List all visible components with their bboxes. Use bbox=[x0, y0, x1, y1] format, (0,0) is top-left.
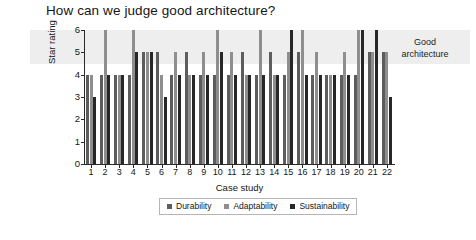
bar-durability-case-11[interactable] bbox=[227, 75, 230, 164]
x-tick-mark bbox=[204, 165, 205, 168]
bar-group bbox=[366, 30, 380, 164]
bar-group bbox=[281, 30, 295, 164]
x-tick-label: 7 bbox=[169, 168, 183, 177]
x-tick-label: 5 bbox=[140, 168, 154, 177]
bar-sustainability-case-2[interactable] bbox=[107, 75, 110, 164]
bar-sustainability-case-15[interactable] bbox=[290, 30, 293, 164]
x-axis-label: Case study bbox=[84, 182, 395, 193]
x-tick-mark bbox=[359, 165, 360, 168]
y-tick-label: 6 bbox=[75, 25, 80, 35]
x-tick-label: 2 bbox=[98, 168, 112, 177]
chart-panel: Good architecture Star rating Case study… bbox=[30, 26, 470, 191]
bar-durability-case-13[interactable] bbox=[255, 75, 258, 164]
bar-durability-case-16[interactable] bbox=[297, 52, 300, 164]
bar-adaptability-case-3[interactable] bbox=[118, 75, 121, 164]
bar-durability-case-7[interactable] bbox=[170, 75, 173, 164]
bar-sustainability-case-21[interactable] bbox=[375, 30, 378, 164]
x-tick-mark bbox=[331, 165, 332, 168]
bar-adaptability-case-8[interactable] bbox=[188, 75, 191, 164]
legend-label-sustainability: Sustainability bbox=[299, 201, 349, 211]
bar-adaptability-case-7[interactable] bbox=[174, 52, 177, 164]
bar-durability-case-17[interactable] bbox=[311, 75, 314, 164]
bar-adaptability-case-15[interactable] bbox=[287, 52, 290, 164]
y-axis-label: Star rating bbox=[46, 20, 57, 64]
bar-durability-case-2[interactable] bbox=[100, 75, 103, 164]
bar-sustainability-case-19[interactable] bbox=[347, 75, 350, 164]
bar-sustainability-case-5[interactable] bbox=[150, 52, 153, 164]
bar-durability-case-1[interactable] bbox=[86, 75, 89, 164]
bar-adaptability-case-10[interactable] bbox=[216, 30, 219, 164]
bar-durability-case-5[interactable] bbox=[142, 52, 145, 164]
bar-durability-case-4[interactable] bbox=[128, 75, 131, 164]
bar-adaptability-case-2[interactable] bbox=[104, 30, 107, 164]
bar-sustainability-case-14[interactable] bbox=[276, 75, 279, 164]
x-tick-mark bbox=[190, 165, 191, 168]
x-tick-label: 13 bbox=[253, 168, 267, 177]
x-tick-label: 6 bbox=[154, 168, 168, 177]
bar-sustainability-case-6[interactable] bbox=[164, 97, 167, 164]
x-tick-mark bbox=[387, 165, 388, 168]
bar-adaptability-case-17[interactable] bbox=[315, 52, 318, 164]
bar-sustainability-case-9[interactable] bbox=[206, 75, 209, 164]
bar-durability-case-21[interactable] bbox=[368, 52, 371, 164]
bar-adaptability-case-19[interactable] bbox=[343, 52, 346, 164]
bar-adaptability-case-9[interactable] bbox=[202, 52, 205, 164]
bar-group bbox=[154, 30, 168, 164]
x-tick-mark bbox=[260, 165, 261, 168]
x-tick-label: 21 bbox=[366, 168, 380, 177]
bar-adaptability-case-16[interactable] bbox=[301, 30, 304, 164]
bar-adaptability-case-21[interactable] bbox=[371, 52, 374, 164]
bar-sustainability-case-22[interactable] bbox=[389, 97, 392, 164]
bar-adaptability-case-1[interactable] bbox=[90, 75, 93, 164]
bar-sustainability-case-11[interactable] bbox=[234, 75, 237, 164]
bar-adaptability-case-5[interactable] bbox=[146, 52, 149, 164]
bar-sustainability-case-20[interactable] bbox=[361, 30, 364, 164]
bar-durability-case-22[interactable] bbox=[382, 52, 385, 164]
bar-sustainability-case-8[interactable] bbox=[192, 75, 195, 164]
bar-group bbox=[98, 30, 112, 164]
bar-durability-case-6[interactable] bbox=[156, 52, 159, 164]
bar-sustainability-case-4[interactable] bbox=[135, 52, 138, 164]
bar-durability-case-3[interactable] bbox=[114, 75, 117, 164]
bar-durability-case-20[interactable] bbox=[354, 75, 357, 164]
bar-group bbox=[380, 30, 394, 164]
bar-sustainability-case-13[interactable] bbox=[262, 75, 265, 164]
bar-sustainability-case-12[interactable] bbox=[248, 75, 251, 164]
bar-sustainability-case-16[interactable] bbox=[305, 75, 308, 164]
bar-adaptability-case-14[interactable] bbox=[273, 75, 276, 164]
bar-durability-case-19[interactable] bbox=[340, 75, 343, 164]
x-tick-label: 14 bbox=[267, 168, 281, 177]
bar-adaptability-case-18[interactable] bbox=[329, 75, 332, 164]
bar-durability-case-9[interactable] bbox=[199, 75, 202, 164]
bar-adaptability-case-4[interactable] bbox=[132, 30, 135, 164]
bar-durability-case-15[interactable] bbox=[283, 75, 286, 164]
bar-sustainability-case-7[interactable] bbox=[178, 75, 181, 164]
bar-adaptability-case-22[interactable] bbox=[385, 52, 388, 164]
bar-durability-case-8[interactable] bbox=[185, 52, 188, 164]
x-tick-label: 1 bbox=[84, 168, 98, 177]
bar-adaptability-case-6[interactable] bbox=[160, 75, 163, 164]
bar-group bbox=[183, 30, 197, 164]
bar-adaptability-case-13[interactable] bbox=[259, 30, 262, 164]
legend-item-durability: Durability bbox=[167, 201, 211, 211]
bar-durability-case-12[interactable] bbox=[241, 52, 244, 164]
y-tick-label: 4 bbox=[75, 70, 80, 80]
bar-adaptability-case-11[interactable] bbox=[230, 52, 233, 164]
bar-adaptability-case-12[interactable] bbox=[245, 75, 248, 164]
bar-durability-case-14[interactable] bbox=[269, 52, 272, 164]
bar-adaptability-case-20[interactable] bbox=[357, 30, 360, 164]
x-tick-label: 18 bbox=[324, 168, 338, 177]
bar-sustainability-case-18[interactable] bbox=[333, 75, 336, 164]
bar-durability-case-10[interactable] bbox=[213, 75, 216, 164]
legend-swatch-icon-adaptability bbox=[224, 204, 229, 209]
x-tick-label: 17 bbox=[309, 168, 323, 177]
bar-durability-case-18[interactable] bbox=[325, 75, 328, 164]
bar-sustainability-case-10[interactable] bbox=[220, 52, 223, 164]
bar-group bbox=[126, 30, 140, 164]
bar-sustainability-case-1[interactable] bbox=[93, 97, 96, 164]
bar-group bbox=[225, 30, 239, 164]
bar-sustainability-case-3[interactable] bbox=[121, 75, 124, 164]
bar-group bbox=[253, 30, 267, 164]
x-tick-label: 15 bbox=[281, 168, 295, 177]
bar-sustainability-case-17[interactable] bbox=[319, 75, 322, 164]
